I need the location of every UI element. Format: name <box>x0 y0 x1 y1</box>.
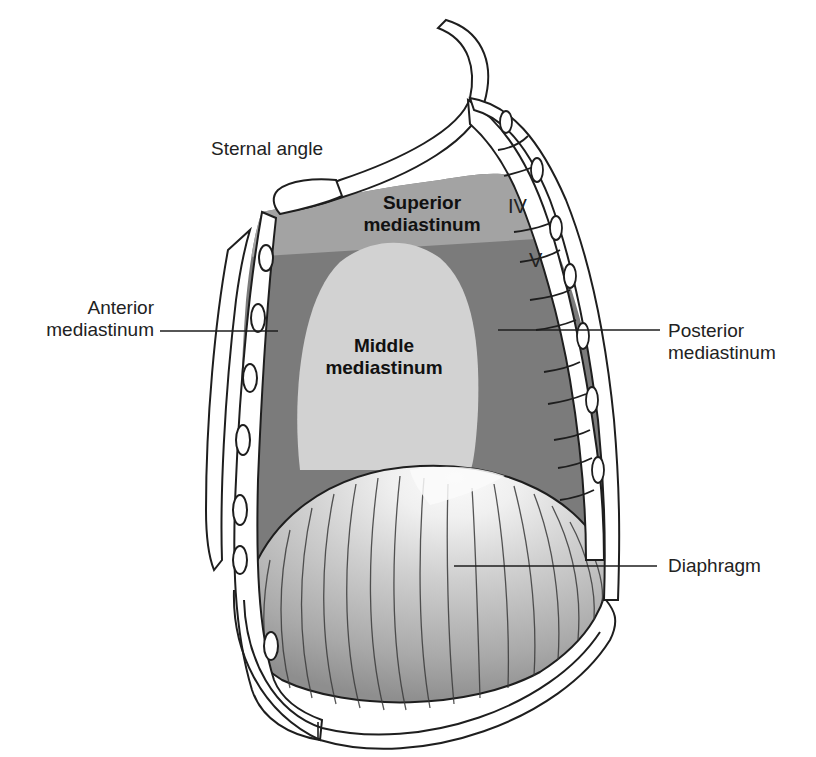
label-middle-mediastinum-line2: mediastinum <box>309 357 459 379</box>
label-vertebra-v: V <box>529 249 542 271</box>
label-posterior-mediastinum-line2: mediastinum <box>668 342 776 364</box>
mediastinum-diagram: Sternal angle Superior mediastinum Anter… <box>0 0 816 757</box>
label-superior-mediastinum-line1: Superior <box>342 192 502 214</box>
label-superior-mediastinum-line2: mediastinum <box>342 214 502 236</box>
label-diaphragm: Diaphragm <box>668 555 761 577</box>
label-vertebra-iv: IV <box>508 195 527 217</box>
label-middle-mediastinum-line1: Middle <box>309 335 459 357</box>
label-posterior-mediastinum-line1: Posterior <box>668 320 744 342</box>
label-sternal-angle: Sternal angle <box>211 138 323 160</box>
clipped-top-text <box>0 0 816 6</box>
label-anterior-mediastinum-line2: mediastinum <box>30 319 154 341</box>
label-anterior-mediastinum-line1: Anterior <box>30 297 154 319</box>
